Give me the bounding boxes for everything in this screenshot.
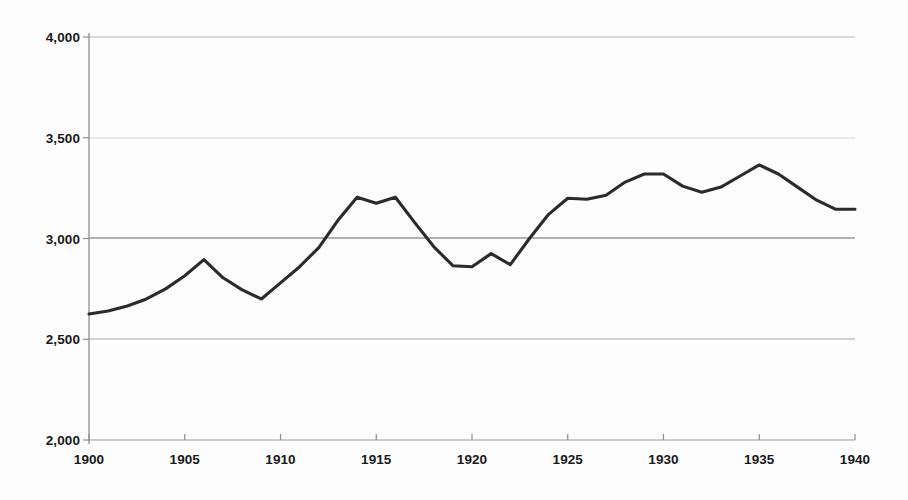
x-axis-tick-label: 1915 — [361, 452, 391, 467]
data-series-line — [89, 165, 855, 314]
x-axis-tick-label: 1900 — [74, 452, 104, 467]
y-axis-tick-label: 2,000 — [20, 433, 80, 448]
x-axis-ticks — [89, 434, 855, 440]
y-axis-tick-label: 3,000 — [20, 231, 80, 246]
x-axis-tick-label: 1930 — [648, 452, 678, 467]
y-axis-tick-label: 2,500 — [20, 332, 80, 347]
y-axis-ticks — [83, 37, 89, 440]
x-axis-tick-label: 1935 — [744, 452, 774, 467]
x-axis-tick-label: 1910 — [265, 452, 295, 467]
x-axis-tick-label: 1940 — [840, 452, 870, 467]
y-axis-tick-label: 4,000 — [20, 30, 80, 45]
line-chart: 2,0002,5003,0003,5004,000 19001905191019… — [0, 0, 908, 500]
x-axis-tick-label: 1905 — [170, 452, 200, 467]
gridlines — [89, 37, 855, 440]
x-axis-tick-label: 1925 — [553, 452, 583, 467]
chart-plot-area — [0, 0, 908, 500]
x-axis-tick-label: 1920 — [457, 452, 487, 467]
y-axis-tick-label: 3,500 — [20, 130, 80, 145]
